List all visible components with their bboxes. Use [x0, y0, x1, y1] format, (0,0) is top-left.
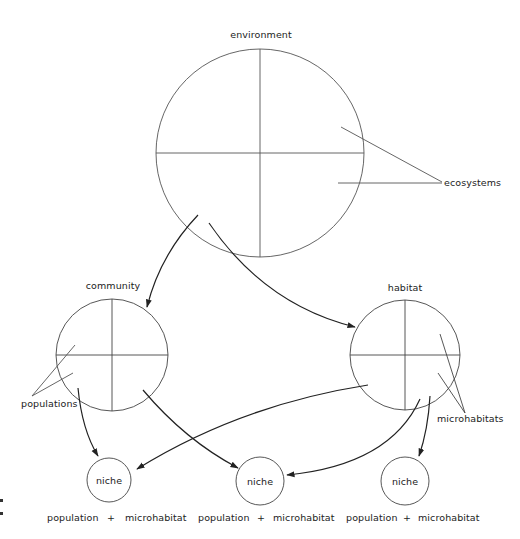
formula-population: population — [346, 513, 398, 523]
formula-plus: + — [257, 513, 265, 523]
populations-callout-lines — [32, 345, 75, 396]
formula-microhabitat: microhabitat — [125, 513, 187, 523]
microhabitats-label: microhabitats — [437, 414, 504, 424]
niche-label-3: niche — [392, 477, 418, 487]
niche-label-1: niche — [96, 476, 122, 486]
formula-plus: + — [107, 513, 115, 523]
formula-microhabitat: microhabitat — [273, 513, 335, 523]
formula-population: population — [47, 513, 99, 523]
arrow-environment-to-community — [147, 215, 198, 307]
habitat-label: habitat — [388, 283, 422, 293]
environment-circle — [156, 49, 364, 257]
ecosystems-callout-lines — [338, 127, 442, 183]
community-circle — [56, 299, 168, 411]
formula-population: population — [198, 513, 250, 523]
formula-plus: + — [403, 513, 411, 523]
community-label: community — [86, 281, 140, 291]
arrow-environment-to-habitat — [209, 223, 355, 327]
niche-label-2: niche — [247, 477, 273, 487]
diagram-canvas — [0, 0, 520, 539]
edge-mark — [0, 512, 3, 515]
edge-mark — [0, 499, 3, 502]
ecosystems-label: ecosystems — [444, 178, 501, 188]
microhabitats-callout-lines — [438, 334, 465, 413]
populations-label: populations — [21, 399, 78, 409]
formula-microhabitat: microhabitat — [418, 513, 480, 523]
arrow-habitat-to-niche-2 — [287, 399, 420, 475]
habitat-circle — [350, 300, 460, 410]
arrow-habitat-to-niche-1 — [137, 385, 368, 469]
arrow-community-to-niche-1 — [78, 388, 98, 456]
environment-label: environment — [230, 30, 292, 40]
